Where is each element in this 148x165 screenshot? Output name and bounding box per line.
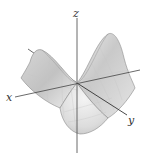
y-axis-label: y bbox=[127, 114, 135, 127]
saddle-surface-diagram: z x y bbox=[0, 0, 148, 165]
z-axis-label: z bbox=[72, 7, 79, 20]
x-axis-label: x bbox=[6, 91, 13, 104]
